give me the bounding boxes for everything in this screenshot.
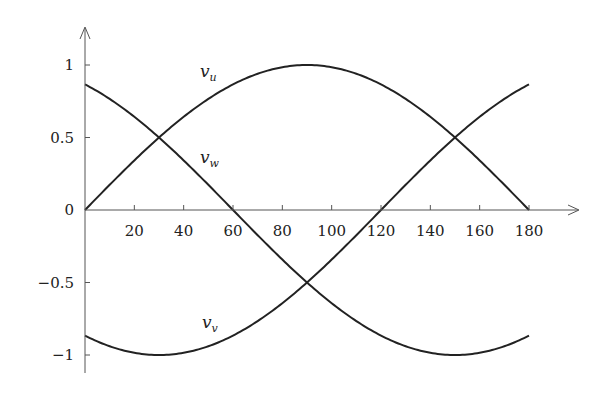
x-tick-label: 100 bbox=[317, 222, 346, 240]
series-label-vw: vw bbox=[200, 147, 220, 170]
x-tick-label: 40 bbox=[174, 222, 193, 240]
x-tick-label: 80 bbox=[273, 222, 292, 240]
x-tick-label: 140 bbox=[416, 222, 445, 240]
series-label-vu: vu bbox=[200, 61, 217, 84]
y-tick-label: 1 bbox=[64, 56, 74, 74]
series-label-vv: vv bbox=[202, 312, 219, 335]
chart: 20406080100120140160180 10.50−0.5−1 vu v… bbox=[0, 0, 615, 393]
curve-vw bbox=[85, 84, 529, 355]
y-ticks: 10.50−0.5−1 bbox=[38, 56, 90, 364]
axes-group bbox=[80, 27, 579, 373]
x-tick-label: 60 bbox=[223, 222, 242, 240]
x-tick-label: 20 bbox=[125, 222, 144, 240]
x-tick-label: 160 bbox=[465, 222, 494, 240]
curve-vv bbox=[85, 84, 529, 355]
x-tick-label: 120 bbox=[367, 222, 396, 240]
y-tick-label: 0.5 bbox=[50, 129, 74, 147]
y-tick-label: −0.5 bbox=[38, 274, 74, 292]
y-tick-label: −1 bbox=[52, 346, 74, 364]
curve-vu bbox=[85, 65, 529, 210]
x-tick-label: 180 bbox=[515, 222, 544, 240]
y-tick-label: 0 bbox=[64, 201, 74, 219]
